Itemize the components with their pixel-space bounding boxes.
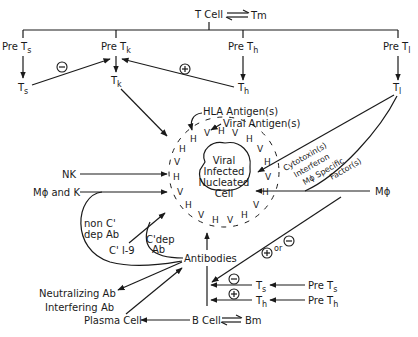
t-cell-tree-lines — [23, 22, 398, 38]
pre-tl-label: Pre Tl — [383, 41, 410, 55]
c1-9-label: C' l-9 — [109, 245, 135, 256]
t-cell-header: T Cell Tm — [194, 9, 267, 21]
tm-label: Tm — [250, 10, 267, 21]
svg-text:V: V — [253, 200, 260, 210]
b-cell-label: B Cell — [192, 315, 221, 326]
svg-text:V: V — [198, 210, 205, 220]
svg-text:Ab: Ab — [152, 244, 165, 255]
pre-ts-label: Pre Ts — [2, 41, 31, 55]
pre-th-label: Pre Th — [228, 41, 258, 55]
svg-text:or: or — [274, 244, 283, 253]
ts-label: Ts — [17, 82, 28, 96]
svg-text:H: H — [173, 172, 180, 182]
t-cell-label: T Cell — [194, 9, 223, 20]
svg-text:Infected: Infected — [204, 166, 245, 177]
nk-label: NK — [62, 169, 76, 180]
equilibrium-arrows-icon — [221, 315, 242, 325]
infected-cell: Viral Infected Nucleated Cell — [199, 142, 251, 199]
minus-circle-icon — [229, 274, 239, 284]
tk-label: Tk — [110, 75, 122, 89]
svg-text:V: V — [257, 144, 264, 154]
svg-text:V: V — [265, 172, 272, 182]
svg-text:Cell: Cell — [215, 188, 234, 199]
svg-text:V: V — [177, 187, 184, 197]
pre-tk-label: Pre Tk — [101, 41, 131, 55]
svg-text:non C': non C' — [84, 218, 116, 229]
svg-text:H: H — [262, 187, 269, 197]
ts-bottom-label: Ts — [255, 280, 266, 294]
equilibrium-arrows-icon — [226, 10, 249, 20]
svg-text:H: H — [185, 200, 192, 210]
plus-circle-icon — [229, 289, 239, 299]
plasma-cell-label: Plasma Cell — [84, 315, 142, 326]
bm-label: Bm — [245, 315, 262, 326]
svg-text:V: V — [232, 128, 239, 138]
pre-th-bottom-label: Pre Th — [308, 295, 338, 309]
macrophage-label: Mϕ — [375, 186, 391, 197]
plus-circle-icon — [180, 64, 190, 74]
pre-ts-bottom-label: Pre Ts — [308, 280, 337, 294]
svg-text:H: H — [212, 215, 219, 225]
immune-response-diagram: T Cell Tm Pre Ts Pre Tk Pre Th Pre Tl Ts… — [0, 0, 418, 337]
tl-label: Tl — [392, 82, 401, 96]
svg-text:dep Ab: dep Ab — [84, 229, 119, 240]
svg-text:Viral: Viral — [213, 155, 235, 166]
th-bottom-label: Th — [255, 295, 267, 309]
viral-antigen-label: Viral Antigen(s) — [223, 118, 300, 129]
svg-text:H: H — [246, 134, 253, 144]
antibodies-label: Antibodies — [184, 253, 237, 264]
svg-text:V: V — [204, 128, 211, 138]
svg-text:V: V — [227, 215, 234, 225]
svg-text:H: H — [179, 144, 186, 154]
macrophage-k-label: Mϕ and K — [33, 187, 80, 198]
cytotoxin-labels: Cytotoxin(s) Interferon Mϕ Specific Fact… — [282, 130, 363, 200]
neutralizing-ab-label: Neutralizing Ab — [39, 288, 116, 299]
svg-text:Nucleated: Nucleated — [199, 177, 250, 188]
svg-text:V: V — [174, 157, 181, 167]
minus-circle-icon — [57, 62, 67, 72]
plus-or-minus-badge: or — [262, 236, 294, 258]
interfering-ab-label: Interfering Ab — [45, 302, 114, 313]
svg-text:H: H — [241, 210, 248, 220]
th-label: Th — [237, 82, 249, 96]
svg-text:H: H — [190, 134, 197, 144]
hla-antigen-label: HLA Antigen(s) — [203, 106, 278, 117]
